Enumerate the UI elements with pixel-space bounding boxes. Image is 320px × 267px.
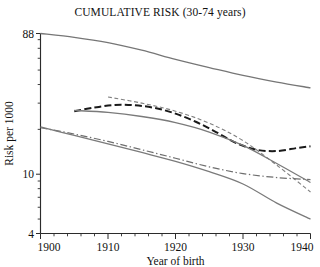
x-axis-title: Year of birth: [146, 255, 204, 267]
series-line-dash-dot-curve: [41, 128, 311, 180]
series-line-upper-solid-curve: [74, 110, 310, 182]
x-tick-label: 1940: [291, 241, 314, 253]
x-tick-label: 1910: [97, 241, 120, 253]
chart-container: CUMULATIVE RISK (30-74 years) 8810419001…: [0, 0, 320, 267]
series-layer: [41, 34, 311, 220]
x-tick-label: 1920: [164, 241, 187, 253]
chart-plot-area: 8810419001910192019301940Year of birthRi…: [0, 0, 320, 267]
x-tick-label: 1900: [38, 241, 61, 253]
y-tick-label: 88: [23, 28, 35, 40]
y-tick-label: 10: [23, 168, 35, 180]
y-axis-title: Risk per 1000: [3, 101, 16, 166]
series-line-top-solid-curve: [41, 34, 311, 88]
series-line-lower-solid-curve: [41, 127, 311, 219]
y-tick-label: 4: [28, 228, 34, 240]
axis-labels-layer: 8810419001910192019301940Year of birthRi…: [3, 28, 314, 267]
x-tick-label: 1930: [232, 241, 255, 253]
